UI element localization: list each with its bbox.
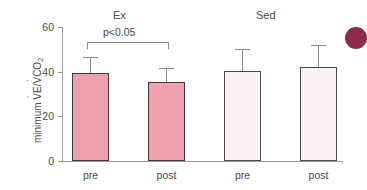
bar-sed-pre[interactable] [224,71,261,161]
y-tick-label-60: 60 [34,22,54,33]
error-bar-line-ex-pre [90,57,91,74]
y-axis-label-subscript: 2 [36,58,45,62]
page-accent-dot [345,27,367,49]
error-bar-cap-ex-pre [83,57,98,58]
y-tick-label-20: 20 [34,111,54,122]
error-bar-line-ex-post [166,68,167,82]
y-tick-label-40: 40 [34,67,54,78]
y-axis-label-mid: E/ [32,84,43,93]
y-tick-60 [58,27,62,28]
group-label-sed: Sed [256,10,276,21]
y-tick-40 [58,72,62,73]
x-label-ex-post: post [148,170,185,181]
p-value-label: p<0.05 [103,27,135,38]
significance-bracket [87,42,169,49]
error-bar-cap-sed-pre [235,49,250,50]
y-axis-line [62,27,63,161]
bar-ex-pre[interactable] [72,73,109,161]
group-label-ex: Ex [113,10,126,21]
y-tick-0 [58,161,62,162]
y-tick-20 [58,116,62,117]
x-axis-line [62,161,343,162]
x-label-sed-post: post [300,170,337,181]
bar-ex-post[interactable] [148,82,185,161]
v-dot-1: V [33,93,43,100]
y-tick-label-0: 0 [34,156,54,167]
error-bar-cap-ex-post [159,68,174,69]
error-bar-line-sed-post [318,45,319,67]
error-bar-line-sed-pre [242,49,243,70]
x-label-sed-pre: pre [224,170,261,181]
bar-sed-post[interactable] [300,67,337,161]
x-label-ex-pre: pre [72,170,109,181]
error-bar-cap-sed-post [311,45,326,46]
